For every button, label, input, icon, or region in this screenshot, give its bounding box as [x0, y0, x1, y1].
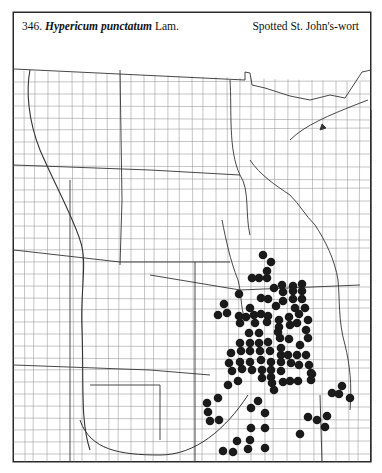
occurrence-dot [304, 334, 313, 343]
occurrence-dot [238, 365, 247, 374]
occurrence-dot [245, 329, 254, 338]
occurrence-dot [286, 377, 295, 386]
occurrence-dot [258, 366, 267, 375]
occurrence-dot [302, 351, 311, 360]
occurrence-dot [246, 358, 255, 367]
occurrence-dot [270, 386, 279, 395]
occurrence-dot [285, 313, 294, 322]
occurrence-dot [295, 361, 304, 370]
occurrence-dot [214, 311, 223, 320]
county-grid [13, 71, 371, 462]
occurrence-dot [264, 338, 273, 347]
occurrence-dot [284, 351, 293, 360]
occurrence-dot [224, 381, 233, 390]
occurrence-dot [267, 358, 276, 367]
occurrence-dot [246, 347, 255, 356]
occurrence-dot [247, 424, 256, 433]
occurrence-dot [247, 404, 256, 413]
occurrence-dot [255, 339, 264, 348]
occurrence-dot [295, 310, 304, 319]
occurrence-dot [307, 376, 316, 385]
occurrence-dot [215, 416, 224, 425]
occurrence-dot [276, 334, 285, 343]
occurrence-dot [298, 287, 307, 296]
occurrence-dot [323, 412, 332, 421]
occurrence-dot [287, 359, 296, 368]
occurrence-dot [296, 430, 305, 439]
occurrence-dot [257, 356, 266, 365]
occurrence-dot [261, 424, 270, 433]
occurrence-dot [225, 359, 234, 368]
occurrence-dot [298, 295, 307, 304]
occurrence-dot [255, 274, 264, 283]
occurrence-dot [293, 351, 302, 360]
occurrence-dot [214, 394, 223, 403]
occurrence-dot [304, 413, 313, 422]
occurrence-dot [258, 374, 267, 383]
occurrence-dot [236, 319, 245, 328]
occurrence-markers [203, 251, 355, 457]
distribution-map [0, 0, 382, 473]
occurrence-dot [234, 377, 243, 386]
occurrence-dot [289, 295, 298, 304]
occurrence-dot [236, 339, 245, 348]
occurrence-dot [279, 297, 288, 306]
occurrence-dot [263, 274, 272, 283]
occurrence-dot [203, 399, 212, 408]
occurrence-dot [246, 339, 255, 348]
occurrence-dot [293, 319, 302, 328]
occurrence-dot [256, 347, 265, 356]
occurrence-dot [223, 309, 232, 318]
occurrence-dot [285, 335, 294, 344]
occurrence-dot [204, 408, 213, 417]
occurrence-dot [305, 361, 314, 370]
occurrence-dot [263, 318, 272, 327]
occurrence-dot [235, 290, 244, 299]
occurrence-dot [313, 416, 322, 425]
occurrence-dot [227, 349, 236, 358]
occurrence-dot [251, 319, 260, 328]
occurrence-dot [220, 300, 229, 309]
occurrence-dot [267, 258, 276, 267]
occurrence-dot [228, 367, 237, 376]
occurrence-dot [255, 329, 264, 338]
occurrence-dot [233, 437, 242, 446]
occurrence-dot [219, 447, 228, 456]
occurrence-dot [338, 382, 347, 391]
occurrence-dot [277, 367, 286, 376]
occurrence-dot [259, 251, 268, 260]
occurrence-dot [244, 445, 253, 454]
occurrence-dot [246, 436, 255, 445]
occurrence-dot [229, 448, 238, 457]
occurrence-dot [261, 444, 270, 453]
occurrence-dot [264, 295, 273, 304]
occurrence-dot [206, 417, 215, 426]
occurrence-dot [270, 284, 279, 293]
occurrence-dot [279, 288, 288, 297]
occurrence-dot [346, 394, 355, 403]
occurrence-dot [335, 390, 344, 399]
occurrence-dot [261, 409, 270, 418]
occurrence-dot [302, 326, 311, 335]
occurrence-dot [237, 347, 246, 356]
occurrence-dot [266, 347, 275, 356]
occurrence-dot [294, 377, 303, 386]
occurrence-dot [304, 316, 313, 325]
occurrence-dot [272, 302, 281, 311]
occurrence-dot [254, 397, 263, 406]
occurrence-dot [289, 287, 298, 296]
occurrence-dot [248, 366, 257, 375]
occurrence-dot [277, 358, 286, 367]
occurrence-dot [296, 341, 305, 350]
occurrence-dot [321, 423, 330, 432]
